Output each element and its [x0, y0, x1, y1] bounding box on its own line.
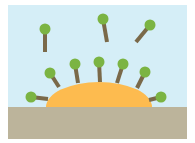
ground-surface [8, 107, 187, 139]
molecule-head [118, 59, 129, 70]
molecule-head [140, 67, 151, 78]
molecule-head [45, 68, 56, 79]
molecule-head [98, 14, 109, 25]
molecule-head [94, 57, 105, 68]
molecule-head [156, 92, 167, 103]
diagram-canvas [0, 0, 195, 143]
molecule-head [70, 59, 81, 70]
molecule-head [26, 92, 37, 103]
molecule-head [145, 20, 156, 31]
molecule-head [40, 24, 51, 35]
